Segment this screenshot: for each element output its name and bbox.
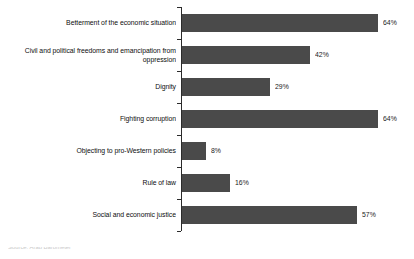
chart-row: Dignity 29% [0, 71, 414, 103]
bar-track: 16% [176, 167, 414, 199]
category-label: Civil and political freedoms and emancip… [12, 46, 176, 64]
axis-tick [177, 103, 181, 104]
bar [181, 14, 378, 32]
bar-track: 42% [176, 39, 414, 71]
bar-track: 57% [176, 199, 414, 231]
chart-title-clipped [0, 0, 414, 7]
bar [181, 78, 270, 96]
bar-value-label: 57% [362, 210, 376, 219]
bar [181, 174, 230, 192]
category-label: Objecting to pro-Western policies [12, 146, 176, 155]
bar-value-label: 42% [315, 50, 329, 59]
bar [181, 206, 357, 224]
chart-row: Rule of law 16% [0, 167, 414, 199]
bar-value-label: 64% [383, 114, 397, 123]
category-label: Rule of law [12, 178, 176, 187]
bar-value-label: 29% [275, 82, 289, 91]
bar-track: 64% [176, 103, 414, 135]
chart-rows: Betterment of the economic situation 64%… [0, 7, 414, 231]
source-note-clipped: Source: Arab Barometer [0, 247, 414, 259]
bar-value-label: 8% [211, 146, 221, 155]
axis-tick [177, 199, 181, 200]
category-label: Social and economic justice [12, 210, 176, 219]
source-note: Source: Arab Barometer [8, 247, 71, 250]
axis-tick [177, 167, 181, 168]
category-label: Dignity [12, 82, 176, 91]
axis-tick [177, 7, 181, 8]
bar-track: 29% [176, 71, 414, 103]
chart-row: Betterment of the economic situation 64% [0, 7, 414, 39]
chart-row: Fighting corruption 64% [0, 103, 414, 135]
bar-value-label: 16% [235, 178, 249, 187]
chart-row: Social and economic justice 57% [0, 199, 414, 231]
bar [181, 142, 206, 160]
category-label: Fighting corruption [12, 114, 176, 123]
chart-row: Civil and political freedoms and emancip… [0, 39, 414, 71]
bar [181, 110, 378, 128]
axis-tick [177, 39, 181, 40]
axis-tick [177, 231, 181, 232]
axis-tick [177, 71, 181, 72]
bar-track: 8% [176, 135, 414, 167]
value-axis-line [181, 7, 182, 231]
bar-chart: Betterment of the economic situation 64%… [0, 7, 414, 243]
axis-tick [177, 135, 181, 136]
chart-row: Objecting to pro-Western policies 8% [0, 135, 414, 167]
bar [181, 46, 310, 64]
bar-track: 64% [176, 7, 414, 39]
category-label: Betterment of the economic situation [12, 18, 176, 27]
bar-value-label: 64% [383, 18, 397, 27]
